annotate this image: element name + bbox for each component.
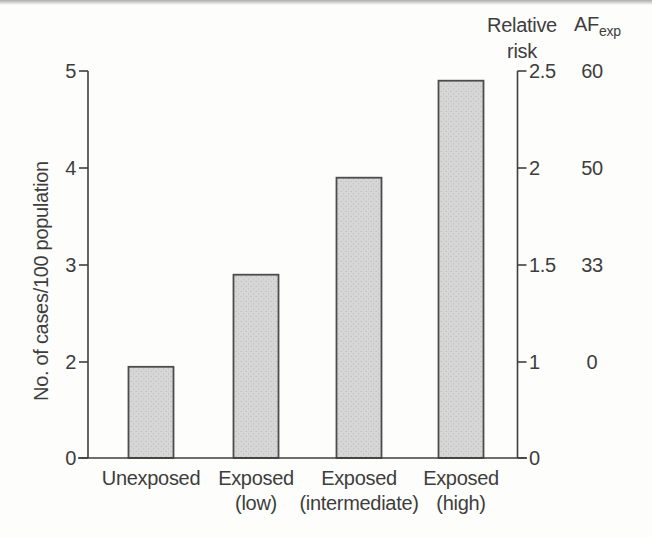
af-exp-value-50: 50 xyxy=(560,156,624,180)
relative-risk-tick-label-2-5: 2.5 xyxy=(529,59,556,83)
af-exp-value-33: 33 xyxy=(560,253,624,277)
left-axis-tick-label-5: 5 xyxy=(0,59,76,83)
left-axis-tick-label-4: 4 xyxy=(0,156,76,180)
x-category-label-line2: (high) xyxy=(381,491,541,516)
left-axis-tick-label-2: 2 xyxy=(0,350,76,374)
left-axis-tick-label-0: 0 xyxy=(0,446,76,470)
x-category-label-line1: Exposed xyxy=(381,466,541,491)
left-axis-tick-label-3: 3 xyxy=(0,253,76,277)
relative-risk-tick-label-1: 1 xyxy=(529,350,540,374)
relative-risk-tick-label-1-5: 1.5 xyxy=(529,253,556,277)
bar-exposed-high xyxy=(439,81,484,458)
bar-unexposed xyxy=(129,367,174,458)
bar-exposed-low xyxy=(234,275,279,458)
attributable-fraction-bar-chart: No. of cases/100 population Relative ris… xyxy=(0,0,652,537)
relative-risk-tick-label-2: 2 xyxy=(529,156,540,180)
af-exp-value-60: 60 xyxy=(560,59,624,83)
x-category-label-exposed-high: Exposed(high) xyxy=(381,466,541,516)
af-exp-value-0: 0 xyxy=(560,350,624,374)
bar-exposed-intermediate xyxy=(337,178,382,458)
